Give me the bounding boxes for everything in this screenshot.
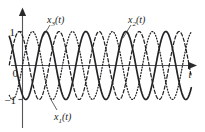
curve-label-x3: x3(t) (46, 14, 65, 28)
curve-label-x3-args: (t) (55, 14, 65, 26)
x-axis-label: t (189, 69, 192, 80)
plot-canvas: 1 0 −1 t x3(t) x2(t) x1(t) (0, 0, 205, 132)
y-tick-label-negative-one: −1 (4, 94, 16, 106)
y-tick-label-positive-one: 1 (10, 26, 16, 38)
curve-label-x2: x2(t) (127, 14, 146, 28)
vertical-axis (19, 8, 26, 129)
y-tick-label-zero: 0 (13, 67, 19, 79)
sinusoid-figure: 1 0 −1 t x3(t) x2(t) x1(t) (0, 0, 205, 132)
curve-label-x1-args: (t) (62, 111, 72, 123)
curve-label-x2-args: (t) (136, 14, 146, 26)
curve-label-x1: x1(t) (53, 111, 72, 125)
